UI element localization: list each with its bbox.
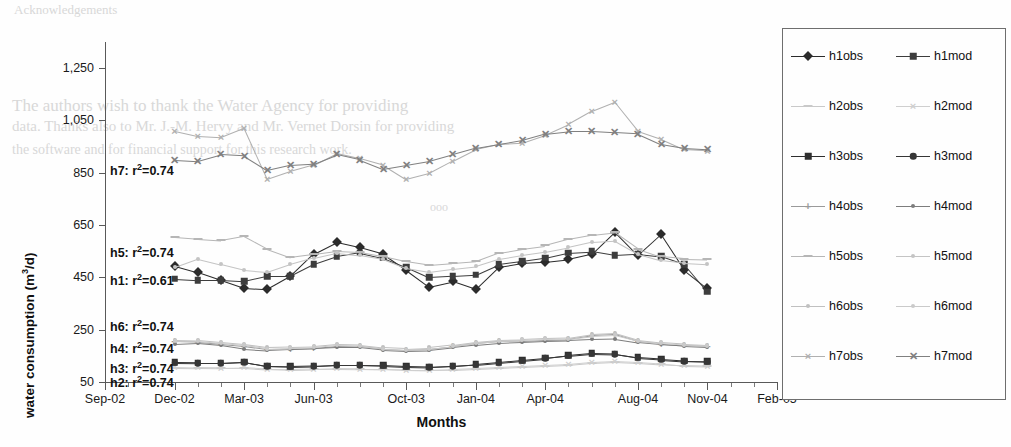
legend-row: h6obsh6mod [783, 295, 1005, 317]
y-axis-label-prefix: water consumption (m [22, 274, 37, 418]
marker-circle [910, 153, 917, 160]
legend-swatch-h1mod [896, 49, 930, 63]
legend-label-h3obs: h3obs [829, 149, 863, 163]
marker-cross-bold: ✕ [610, 127, 619, 138]
legend-item-h3obs[interactable]: h3obs [791, 145, 896, 167]
legend-swatch-h7obs: × [791, 349, 825, 363]
legend-item-h7obs[interactable]: ×h7obs [791, 345, 896, 367]
legend-item-h5obs[interactable]: h5obs [791, 245, 896, 267]
legend-item-h5mod[interactable]: h5mod [896, 245, 1001, 267]
legend-swatch-h5mod [896, 249, 930, 263]
legend-item-h3mod[interactable]: h3mod [896, 145, 1001, 167]
x-axis-minor-tick [360, 383, 361, 387]
annotation-h6: h6: r2=0.74 [110, 318, 174, 334]
legend-label-h2mod: h2mod [934, 99, 972, 113]
x-axis-minor-tick [592, 383, 593, 387]
marker-cross-bold: ✕ [703, 144, 712, 155]
x-axis-tick-label: Sep-02 [85, 392, 125, 406]
x-axis-tick [175, 383, 176, 390]
annotation-h2: h2: r2=0.74 [110, 374, 174, 390]
x-axis-tick [476, 383, 477, 390]
marker-cross-bold: ✕ [355, 154, 364, 165]
x-axis-minor-tick [522, 383, 523, 387]
y-axis-label: water consumption (m3/d) [20, 218, 37, 418]
marker-cross-bold: ✕ [657, 139, 666, 150]
y-axis-tick-label: 1,050 [42, 113, 94, 127]
x-axis-minor-tick [661, 383, 662, 387]
x-axis-tick-label: Mar-03 [224, 392, 264, 406]
x-axis-tick [777, 383, 778, 390]
legend-item-h6obs[interactable]: h6obs [791, 295, 896, 317]
x-axis-minor-tick [383, 383, 384, 387]
x-axis-minor-tick [615, 383, 616, 387]
marker-dot [911, 304, 915, 308]
figure-canvas: AcknowledgementsThe authors wish to than… [0, 0, 1011, 447]
legend-label-h3mod: h3mod [934, 149, 972, 163]
legend-item-h6mod[interactable]: h6mod [896, 295, 1001, 317]
legend-swatch-h5obs [791, 249, 825, 263]
legend-swatch-h1obs [791, 49, 825, 63]
legend-label-h1obs: h1obs [829, 49, 863, 63]
x-axis-tick [545, 383, 546, 390]
x-axis-minor-tick [267, 383, 268, 387]
marker-cross-bold: ✕ [216, 149, 225, 160]
legend-label-h6mod: h6mod [934, 299, 972, 313]
annotation-h5: h5: r2=0.74 [110, 244, 174, 260]
marker-cross-bold: ✕ [541, 128, 550, 139]
x-axis-minor-tick [499, 383, 500, 387]
x-axis-tick [105, 383, 106, 390]
marker-cross-bold: ✕ [518, 135, 527, 146]
annotation-h7: h7: r2=0.74 [110, 162, 174, 178]
x-axis-tick-label: Jan-04 [457, 392, 495, 406]
marker-square [805, 153, 812, 160]
marker-cross-bold: ✕ [263, 165, 272, 176]
series-h7mod: ✕✕✕✕✕✕✕✕✕✕✕✕✕✕✕✕✕✕✕✕✕✕✕✕ [105, 42, 777, 382]
legend-label-h7obs: h7obs [829, 349, 863, 363]
annotation-h4: h4: r2=0.74 [110, 340, 174, 356]
legend-swatch-h3obs [791, 149, 825, 163]
marker-cross-bold: ✕ [193, 156, 202, 167]
legend-item-h7mod[interactable]: ✕h7mod [896, 345, 1001, 367]
legend-item-h4obs[interactable]: +h4obs [791, 195, 896, 217]
legend-row: ×h7obs✕h7mod [783, 345, 1005, 367]
legend-row: h5obsh5mod [783, 245, 1005, 267]
marker-cross-bold: ✕ [471, 142, 480, 153]
legend-item-h1mod[interactable]: h1mod [896, 45, 1001, 67]
marker-cross-bold: ✕ [425, 156, 434, 167]
legend-item-h2mod[interactable]: ×h2mod [896, 95, 1001, 117]
marker-cross-bold: ✕ [494, 139, 503, 150]
x-axis-minor-tick [337, 383, 338, 387]
x-axis-minor-tick [198, 383, 199, 387]
y-axis-tick-label: 850 [42, 166, 94, 180]
legend-swatch-h7mod: ✕ [896, 349, 930, 363]
marker-cross-bold: ✕ [587, 125, 596, 136]
x-axis-tick-label: Nov-04 [687, 392, 727, 406]
x-axis-tick-label: Oct-03 [387, 392, 425, 406]
marker-cross-bold: ✕ [379, 163, 388, 174]
legend-swatch-h2obs [791, 99, 825, 113]
y-axis-label-exponent: 3 [20, 269, 30, 274]
bleed-line: Acknowledgements [14, 2, 117, 18]
legend-swatch-h4obs: + [791, 199, 825, 213]
legend-label-h2obs: h2obs [829, 99, 863, 113]
marker-cross-bold: ✕ [909, 351, 918, 362]
marker-cross-bold: ✕ [332, 149, 341, 160]
marker-cross-bold: ✕ [633, 128, 642, 139]
legend-swatch-h6obs [791, 299, 825, 313]
marker-dot [911, 204, 915, 208]
marker-cross: × [805, 351, 811, 362]
x-axis-label: Months [105, 414, 778, 430]
legend-label-h7mod: h7mod [934, 349, 972, 363]
legend-item-h1obs[interactable]: h1obs [791, 45, 896, 67]
y-axis-tick-label: 250 [42, 323, 94, 337]
marker-cross-bold: ✕ [240, 150, 249, 161]
legend-label-h4mod: h4mod [934, 199, 972, 213]
marker-square [910, 53, 917, 60]
x-axis-tick [707, 383, 708, 390]
legend-row: h1obsh1mod [783, 45, 1005, 67]
legend-item-h2obs[interactable]: h2obs [791, 95, 896, 117]
legend-swatch-h4mod [896, 199, 930, 213]
marker-plus: + [805, 201, 811, 212]
x-axis-minor-tick [684, 383, 685, 387]
legend-item-h4mod[interactable]: h4mod [896, 195, 1001, 217]
